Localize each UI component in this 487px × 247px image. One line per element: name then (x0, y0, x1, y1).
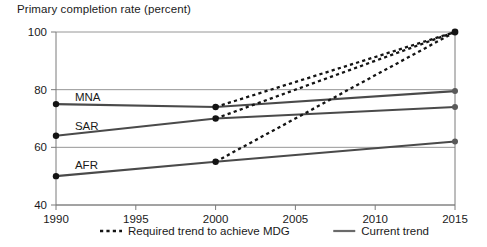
marker-sar-2000 (212, 115, 218, 121)
axes (51, 32, 455, 210)
marker-afr-2000 (212, 159, 218, 165)
legend-label-required-trend: Required trend to achieve MDG (128, 225, 290, 237)
y-axis-tick-labels: 406080100 (28, 26, 47, 211)
chart-container: Primary completion rate (percent) 406080… (0, 0, 487, 247)
marker-sar-1990 (53, 133, 59, 139)
marker-mna-2015 (452, 88, 458, 94)
series-lines (56, 32, 455, 176)
marker-mna-2000 (212, 104, 218, 110)
series-line-afr (56, 142, 455, 177)
series-label-afr: AFR (75, 159, 98, 171)
x-tick-label-2015: 2015 (442, 213, 468, 225)
chart-legend: Required trend to achieve MDGCurrent tre… (100, 225, 429, 237)
x-tick-label-1990: 1990 (43, 213, 69, 225)
marker-afr-1990 (53, 173, 59, 179)
marker-mna-1990 (53, 101, 59, 107)
chart-plot: 406080100 199019952000200520102015 MNASA… (0, 0, 487, 247)
series-label-sar: SAR (75, 120, 99, 132)
series-line-sar (56, 107, 455, 136)
series-annotations: MNASARAFR (75, 91, 101, 171)
x-tick-label-2005: 2005 (283, 213, 309, 225)
y-tick-label-100: 100 (28, 26, 47, 38)
marker-sar-2015 (452, 104, 458, 110)
marker-afr-2015 (452, 139, 458, 145)
x-axis-tick-labels: 199019952000200520102015 (43, 213, 468, 225)
x-tick-label-1995: 1995 (123, 213, 149, 225)
series-line-afr-required (216, 32, 455, 162)
y-tick-label-60: 60 (34, 141, 47, 153)
legend-label-current-trend: Current trend (361, 225, 429, 237)
x-tick-label-2010: 2010 (362, 213, 388, 225)
marker-mdg-target-2015 (452, 29, 459, 36)
series-label-mna: MNA (75, 91, 101, 103)
y-tick-label-40: 40 (34, 199, 47, 211)
y-tick-label-80: 80 (34, 84, 47, 96)
x-tick-label-2000: 2000 (203, 213, 229, 225)
series-line-mna (56, 91, 455, 107)
gridlines (56, 32, 455, 205)
